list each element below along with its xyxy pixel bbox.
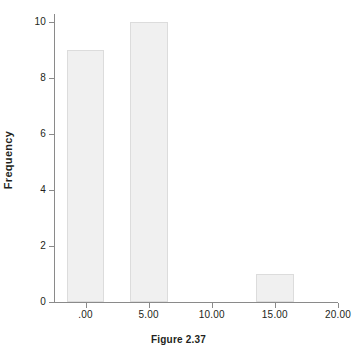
plot-area: 0246810 .005.0010.0015.0020.00: [54, 14, 338, 303]
x-tick-mark: [338, 303, 339, 308]
x-axis-line: [54, 302, 338, 303]
y-axis-title: Frequency: [2, 131, 14, 189]
bar: [67, 50, 105, 302]
y-tick-label: 8: [40, 73, 46, 83]
y-tick-label: 0: [40, 297, 46, 307]
figure-caption: Figure 2.37: [0, 334, 357, 345]
x-tick-mark: [212, 303, 213, 308]
histogram-figure: Frequency 0246810 .005.0010.0015.0020.00…: [0, 0, 357, 355]
x-tick-label: 5.00: [139, 310, 159, 320]
y-tick-label: 10: [34, 17, 46, 27]
x-tick-label: 15.00: [262, 310, 288, 320]
x-tick-mark: [86, 303, 87, 308]
y-axis-line: [54, 14, 55, 303]
x-tick-label: 10.00: [199, 310, 225, 320]
y-tick-mark: [49, 190, 54, 191]
x-tick-mark: [275, 303, 276, 308]
x-tick-label: .00: [78, 310, 93, 320]
y-tick-mark: [49, 246, 54, 247]
y-tick-label: 2: [40, 241, 46, 251]
bar: [130, 22, 168, 302]
y-tick-mark: [49, 78, 54, 79]
y-tick-label: 6: [40, 129, 46, 139]
y-tick-mark: [49, 134, 54, 135]
x-tick-mark: [149, 303, 150, 308]
bar: [256, 274, 294, 302]
x-tick-label: 20.00: [325, 310, 351, 320]
y-tick-mark: [49, 22, 54, 23]
y-tick-label: 4: [40, 185, 46, 195]
y-tick-mark: [49, 302, 54, 303]
